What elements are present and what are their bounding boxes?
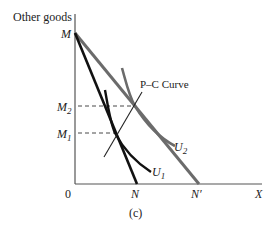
- tick-label-n: N: [130, 187, 140, 201]
- u2-label: U2: [174, 140, 188, 156]
- tick-label-m2: M2: [56, 100, 72, 116]
- price-consumption-diagram: Other goods M M2 M1 0 N N′ X P–C Curve U…: [0, 0, 277, 230]
- budget-line-mn: [75, 33, 137, 184]
- u1-label: U1: [152, 165, 165, 181]
- tick-label-m1: M1: [56, 127, 72, 143]
- tick-label-m: M: [60, 27, 72, 41]
- y-axis-label: Other goods: [13, 10, 72, 24]
- origin-label: 0: [65, 187, 71, 201]
- pc-curve-label: P–C Curve: [140, 78, 189, 90]
- figure-caption: (c): [129, 206, 142, 220]
- x-axis-label: X: [254, 187, 263, 201]
- tick-label-n-prime: N′: [190, 187, 202, 201]
